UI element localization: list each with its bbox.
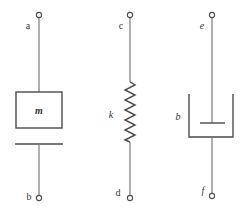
terminal-a-label: a xyxy=(26,20,31,31)
mass-element: m a b xyxy=(15,12,63,202)
damper-element: b e f xyxy=(176,12,234,198)
terminal-c-icon xyxy=(127,12,132,17)
terminal-f-icon xyxy=(209,193,214,198)
spring-zigzag-icon xyxy=(125,82,135,142)
terminal-d-label: d xyxy=(116,187,121,198)
terminal-a-icon xyxy=(36,12,41,17)
terminal-c-label: c xyxy=(119,20,124,31)
damper-symbol-label: b xyxy=(176,111,181,122)
terminal-e-label: e xyxy=(200,20,205,31)
terminal-f-label: f xyxy=(202,185,206,196)
spring-symbol-label: k xyxy=(109,109,114,120)
terminal-d-icon xyxy=(127,195,132,200)
terminal-e-icon xyxy=(209,12,214,17)
terminal-b-label: b xyxy=(27,191,32,202)
mass-symbol-label: m xyxy=(35,105,43,116)
terminal-b-icon xyxy=(36,195,41,200)
spring-element: k c d xyxy=(109,12,135,200)
mechanical-elements-diagram: m a b k c d b e f xyxy=(0,0,243,210)
damper-cylinder xyxy=(189,94,233,137)
